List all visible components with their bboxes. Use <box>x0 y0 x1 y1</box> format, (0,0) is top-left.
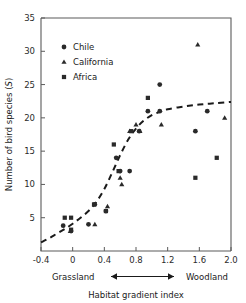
legend: ChileCaliforniaAfrica <box>61 42 113 82</box>
point-california-8 <box>159 122 164 126</box>
point-chile-13 <box>205 109 210 114</box>
y-tick-label-6: 35 <box>24 13 35 23</box>
x-tick-label-0: -0.4 <box>33 255 50 265</box>
point-chile-7 <box>127 169 132 174</box>
point-chile-12 <box>193 129 198 134</box>
point-africa-6 <box>116 169 120 173</box>
point-california-4 <box>119 182 124 186</box>
legend-label-chile: Chile <box>73 42 94 52</box>
scatter-plot: -0.400.40.81.21.62.0 5101520253035 Chile… <box>0 0 246 303</box>
point-africa-4 <box>104 209 108 213</box>
x-tick-label-3: 0.8 <box>129 255 143 265</box>
series-africa <box>63 96 219 232</box>
point-california-1 <box>92 222 97 226</box>
x-axis-title: Habitat gradient index <box>88 290 184 300</box>
x-tick-label-4: 1.2 <box>161 255 175 265</box>
y-axis-tick-labels: 5101520253035 <box>24 13 35 223</box>
gradient-arrow-right-head <box>168 273 174 279</box>
y-tick-label-5: 30 <box>24 46 35 56</box>
x-tick-label-6: 2.0 <box>224 255 238 265</box>
series-chile <box>61 82 210 233</box>
point-california-6 <box>133 122 138 126</box>
point-africa-10 <box>215 156 219 160</box>
x-tick-label-2: 0.4 <box>98 255 112 265</box>
point-chile-2 <box>86 222 91 227</box>
data-points <box>61 42 227 233</box>
point-california-3 <box>118 175 123 179</box>
legend-marker-california <box>61 59 66 63</box>
y-tick-label-0: 5 <box>30 213 35 223</box>
legend-marker-chile <box>62 45 67 50</box>
y-tick-label-1: 10 <box>24 179 35 189</box>
legend-marker-africa <box>62 75 66 79</box>
point-chile-9 <box>145 109 150 114</box>
point-africa-2 <box>69 228 73 232</box>
point-africa-9 <box>193 176 197 180</box>
y-tick-label-2: 15 <box>24 146 35 156</box>
point-africa-8 <box>146 96 150 100</box>
gradient-arrow-left-head <box>111 273 117 279</box>
point-california-10 <box>222 115 227 119</box>
x-axis-tick-labels: -0.400.40.81.21.62.0 <box>33 255 238 265</box>
grassland-endpoint-label: Grassland <box>52 272 95 282</box>
legend-label-california: California <box>73 57 113 67</box>
y-tick-label-4: 25 <box>24 80 35 90</box>
point-africa-0 <box>63 216 67 220</box>
point-chile-11 <box>157 109 162 114</box>
y-tick-label-3: 20 <box>24 113 35 123</box>
point-chile-0 <box>61 223 66 228</box>
point-chile-5 <box>114 155 119 160</box>
point-california-2 <box>105 204 110 208</box>
point-africa-3 <box>92 202 96 206</box>
x-tick-label-5: 1.6 <box>193 255 207 265</box>
axis-labels: Number of bird species (S)GrasslandWoodl… <box>4 78 228 300</box>
legend-label-africa: Africa <box>73 72 97 82</box>
point-africa-5 <box>112 142 116 146</box>
point-chile-10 <box>157 82 162 87</box>
point-california-9 <box>195 42 200 46</box>
figure-container: -0.400.40.81.21.62.0 5101520253035 Chile… <box>0 0 246 303</box>
point-africa-1 <box>69 216 73 220</box>
y-axis-title: Number of bird species (S) <box>4 78 14 191</box>
woodland-endpoint-label: Woodland <box>186 272 228 282</box>
x-tick-label-1: 0 <box>70 255 75 265</box>
point-africa-7 <box>129 129 133 133</box>
series-california <box>68 42 228 233</box>
